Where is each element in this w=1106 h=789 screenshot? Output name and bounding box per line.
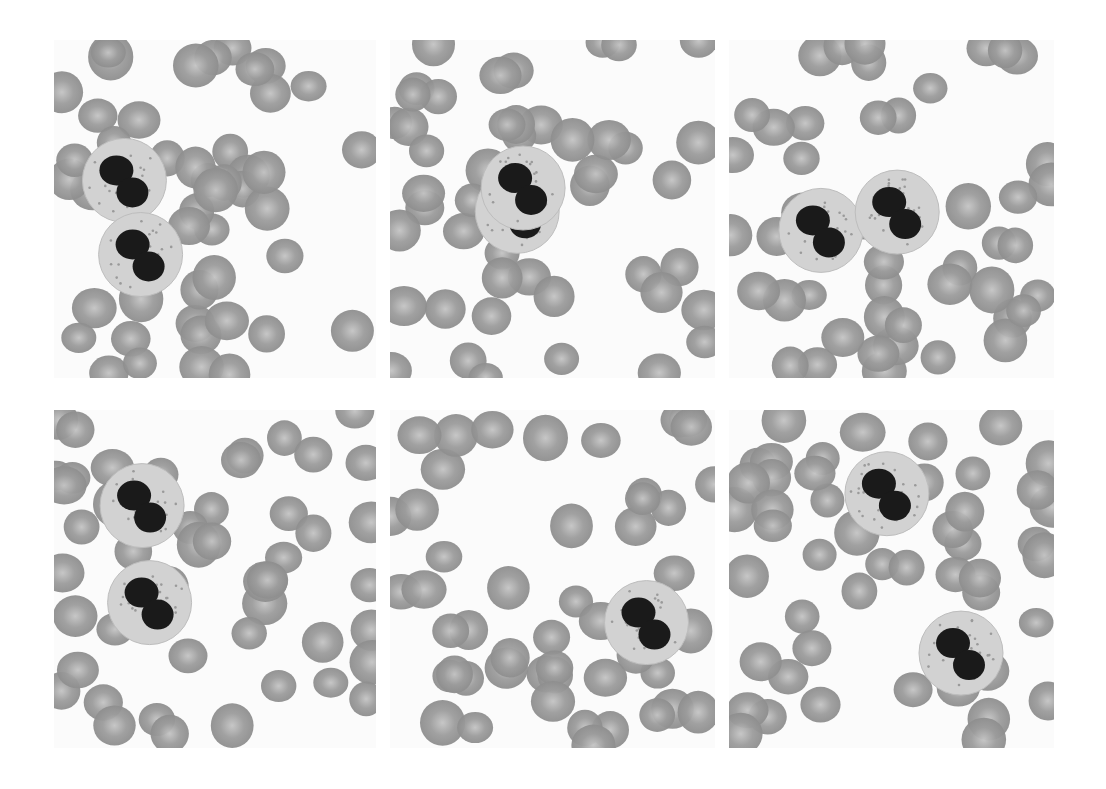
micrograph-panel-5: [390, 410, 715, 748]
micrograph-panel-1: [54, 40, 376, 378]
micrograph-panel-2: [390, 40, 715, 378]
micrograph-panel-6: [729, 410, 1054, 748]
micrograph-panel-4: [54, 410, 376, 748]
micrograph-panel-3: [729, 40, 1054, 378]
